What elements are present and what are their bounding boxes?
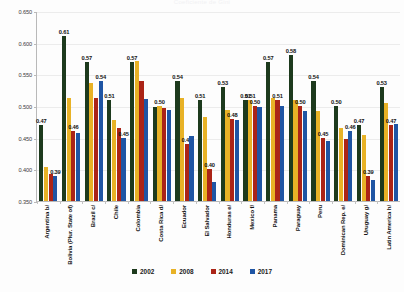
x-axis-label-cell: Chile: [104, 205, 127, 260]
bar: [339, 128, 343, 201]
bar: [144, 99, 148, 201]
y-tick-label: 0.550: [19, 72, 33, 78]
bar: 0.46: [71, 131, 75, 201]
bar-group: 0.530.48: [219, 12, 242, 201]
bar: [235, 120, 239, 201]
page-title: Coeficiente de Gini: [0, 0, 404, 7]
y-tick-label: 0.400: [19, 167, 33, 173]
bar-value-label: 0.50: [331, 99, 341, 105]
x-axis-label: Peru: [317, 205, 323, 218]
legend: 2002200820142017: [0, 268, 404, 275]
x-axis-label: Latin America h/: [386, 205, 392, 250]
bar: 0.47: [39, 125, 43, 201]
legend-swatch-icon: [211, 269, 216, 274]
bar: [344, 139, 348, 201]
bar: 0.51: [275, 100, 279, 201]
x-axis-label: Brazil c/: [90, 205, 96, 227]
bar-value-label: 0.45: [318, 131, 328, 137]
bar: [139, 81, 143, 201]
x-tick-mark: [219, 201, 220, 204]
gini-bar-chart: Coeficiente de Gini 0.6500.6000.5500.500…: [0, 0, 404, 292]
bar: 0.54: [311, 81, 315, 201]
x-tick-mark: [128, 201, 129, 204]
bar-group: 0.510.40: [196, 12, 219, 201]
x-axis-label-cell: Honduras e/: [218, 205, 241, 260]
legend-swatch-icon: [171, 269, 176, 274]
legend-label: 2014: [219, 268, 233, 275]
bar-group: 0.500.46: [332, 12, 355, 201]
x-tick-mark: [241, 201, 242, 204]
bar: [371, 180, 375, 201]
x-axis-label-cell: Colombia: [127, 205, 150, 260]
x-axis-label: Dominican Rep. e/: [340, 205, 346, 255]
bar: [89, 83, 93, 201]
bar-value-label: 0.50: [250, 99, 260, 105]
x-axis-label: El Salvador: [204, 205, 210, 237]
bar-value-label: 0.50: [154, 99, 164, 105]
plot-area: 0.6500.6000.5500.5000.4500.4000.350 0.47…: [36, 12, 400, 202]
legend-item[interactable]: 2017: [250, 268, 272, 275]
x-axis-label-cell: Mexico f/: [241, 205, 264, 260]
bar: [394, 124, 398, 201]
bar: 0.53: [221, 87, 225, 201]
bar-group: 0.510.510.50: [241, 12, 264, 201]
bar: 0.47: [389, 125, 393, 201]
bar-value-label: 0.51: [195, 93, 205, 99]
bar-group: 0.57: [128, 12, 151, 201]
bar: 0.50: [298, 106, 302, 201]
bar: 0.57: [130, 62, 134, 201]
x-tick-mark: [196, 201, 197, 204]
legend-item[interactable]: 2014: [211, 268, 233, 275]
x-axis-label: Uruguay g/: [363, 205, 369, 235]
bar-value-label: 0.57: [81, 55, 91, 61]
bar: [293, 100, 297, 201]
bar-value-label: 0.53: [376, 80, 386, 86]
x-axis-label-cell: Latin America h/: [377, 205, 400, 260]
bar: 0.46: [348, 131, 352, 201]
bar-value-label: 0.40: [204, 162, 214, 168]
x-tick-mark: [82, 201, 83, 204]
bar: 0.39: [53, 176, 57, 201]
bar: 0.54: [175, 81, 179, 201]
bar-value-label: 0.51: [272, 93, 282, 99]
bar: 0.51: [107, 100, 111, 201]
x-axis-label: Chile: [113, 205, 119, 219]
bar: 0.53: [380, 87, 384, 201]
y-tick-label: 0.500: [19, 104, 33, 110]
y-tick-label: 0.350: [19, 199, 33, 205]
bar-value-label: 0.53: [218, 80, 228, 86]
bar: [49, 174, 53, 201]
bar: [112, 120, 116, 201]
bar: [76, 133, 80, 201]
x-axis-label-cell: Brazil c/: [82, 205, 105, 260]
bar: [135, 61, 139, 201]
bar: [257, 107, 261, 201]
bar-value-label: 0.54: [308, 74, 318, 80]
bar: 0.45: [121, 138, 125, 201]
bar-value-label: 0.51: [245, 93, 255, 99]
bar: [180, 98, 184, 201]
x-axis-label-cell: Paraguay: [286, 205, 309, 260]
bar: 0.50: [334, 106, 338, 201]
x-tick-mark: [60, 201, 61, 204]
bar: 0.51: [243, 100, 247, 201]
bar: 0.61: [62, 36, 66, 201]
bar: [44, 167, 48, 201]
bar-group: 0.540.44: [173, 12, 196, 201]
legend-item[interactable]: 2008: [171, 268, 193, 275]
bar-group: 0.610.46: [60, 12, 83, 201]
x-tick-mark: [105, 201, 106, 204]
x-tick-mark: [264, 201, 265, 204]
legend-item[interactable]: 2002: [132, 268, 154, 275]
y-tick-label: 0.650: [19, 9, 33, 15]
x-axis-label: Colombia: [135, 205, 141, 232]
bar: 0.50: [157, 106, 161, 201]
x-tick-mark: [287, 201, 288, 204]
bar-groups: 0.470.390.610.460.570.540.510.450.570.50…: [37, 12, 400, 201]
bar: 0.48: [230, 119, 234, 201]
bar: 0.39: [366, 176, 370, 201]
x-tick-mark: [332, 201, 333, 204]
legend-label: 2017: [258, 268, 272, 275]
bar: [162, 108, 166, 201]
bar-value-label: 0.57: [127, 55, 137, 61]
